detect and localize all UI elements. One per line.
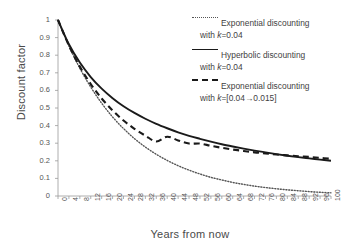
- x-axis-tick-label: 16: [105, 193, 112, 201]
- x-axis-tick-label: 24: [127, 193, 134, 201]
- x-axis-tick-label: 48: [192, 193, 199, 201]
- y-axis-tick-label: 0.4: [24, 122, 50, 130]
- x-axis-tick-label: 96: [323, 193, 330, 201]
- legend-dotted-line-icon: [192, 17, 218, 21]
- x-axis-tick-label: 100: [334, 189, 341, 201]
- x-axis-tick-label: 56: [214, 193, 221, 201]
- x-axis-tick-label: 92: [312, 193, 319, 201]
- y-axis-tick-label: 0.7: [24, 69, 50, 77]
- legend-label-exponential-fixed: Exponential discounting with k=0.04: [192, 18, 339, 42]
- legend-k-value: =[0.04→0.015]: [221, 93, 276, 103]
- y-axis-tick-label: 0.8: [24, 51, 50, 59]
- x-axis-tick-label: 60: [225, 193, 232, 201]
- legend-entry-exponential-fixed: Exponential discounting with k=0.04: [192, 12, 339, 42]
- x-axis-tick-label: 68: [247, 193, 254, 201]
- x-axis-tick-label: 28: [137, 193, 144, 201]
- y-axis-tick-label: 0.5: [24, 104, 50, 112]
- x-axis-tick-label: 40: [170, 193, 177, 201]
- legend-k-value: =0.04: [221, 30, 242, 40]
- x-axis-tick-label: 88: [301, 193, 308, 201]
- x-axis-tick-label: 36: [159, 193, 166, 201]
- x-axis-tick-label: 52: [203, 193, 210, 201]
- y-axis-tick-label: 0.2: [24, 157, 50, 165]
- legend-line2-prefix: with: [200, 93, 217, 103]
- legend-line2: with k=[0.04→0.015]: [200, 93, 339, 105]
- legend-line2: with k=0.04: [200, 62, 339, 74]
- legend-line2-prefix: with: [200, 62, 217, 72]
- legend-line2: with k=0.04: [200, 30, 339, 42]
- x-axis-title: Years from now: [48, 228, 332, 240]
- x-axis-tick-label: 4: [72, 197, 79, 201]
- legend-label-exponential-declining: Exponential discounting with k=[0.04→0.0…: [192, 81, 339, 105]
- x-axis-tick-label: 80: [279, 193, 286, 201]
- x-axis-tick-label: 44: [181, 193, 188, 201]
- legend-line1: Exponential discounting: [221, 18, 309, 28]
- x-axis-tick-label: 76: [268, 193, 275, 201]
- x-axis-tick-label: 84: [290, 193, 297, 201]
- y-axis-tick-label: 1: [24, 16, 50, 24]
- y-axis-tick-label: 0.3: [24, 139, 50, 147]
- y-axis-tick-label: 0.1: [24, 174, 50, 182]
- y-axis-tick-label: 0.9: [24, 34, 50, 42]
- x-axis-tick-label: 0: [61, 197, 68, 201]
- x-axis-tick-label: 32: [148, 193, 155, 201]
- y-axis-tick-marks: [55, 20, 58, 196]
- x-axis-tick-label: 72: [258, 193, 265, 201]
- y-axis-tick-label: 0.6: [24, 86, 50, 94]
- x-axis-tick-label: 8: [83, 197, 90, 201]
- legend-dashed-line-icon: [192, 79, 218, 84]
- chart-legend: Exponential discounting with k=0.04 Hype…: [192, 12, 339, 107]
- x-axis-tick-label: 12: [94, 193, 101, 201]
- y-axis-tick-label: 0: [24, 192, 50, 200]
- legend-entry-hyperbolic: Hyperbolic discounting with k=0.04: [192, 44, 339, 74]
- legend-line1: Hyperbolic discounting: [221, 50, 305, 60]
- legend-line1: Exponential discounting: [221, 81, 309, 91]
- legend-k-value: =0.04: [221, 62, 242, 72]
- legend-label-hyperbolic: Hyperbolic discounting with k=0.04: [192, 50, 339, 74]
- legend-line2-prefix: with: [200, 30, 217, 40]
- legend-entry-exponential-declining: Exponential discounting with k=[0.04→0.0…: [192, 75, 339, 105]
- x-axis-tick-label: 64: [236, 193, 243, 201]
- legend-solid-line-icon: [192, 49, 218, 53]
- x-axis-tick-label: 20: [116, 193, 123, 201]
